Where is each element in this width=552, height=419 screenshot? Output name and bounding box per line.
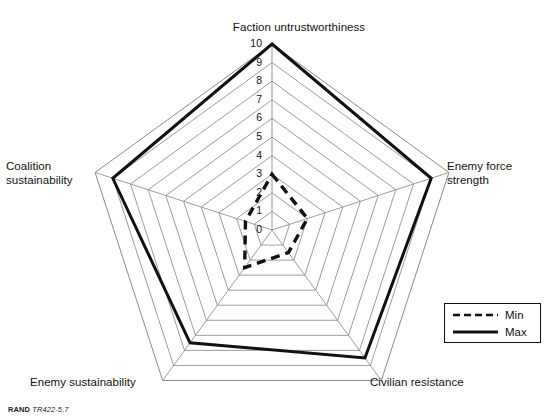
radial-tick-2: 2 [248,186,262,198]
axis-label-faction-untrustworthiness: Faction untrustworthiness [199,21,399,35]
legend-label-min: Min [505,309,524,321]
legend-entry-min: Min [445,306,542,324]
axis-label-enemy-force-strength: Enemy force strength [447,160,551,187]
grid-spokes [95,44,449,380]
radial-tick-10: 10 [248,37,262,49]
axis-label-civilian-resistance: Civilian resistance [370,376,540,390]
chart-legend: Min Max [444,303,541,343]
radial-tick-1: 1 [248,204,262,216]
legend-swatch-solid-line [452,326,499,338]
axis-label-coalition-sustainability: Coalition sustainability [6,160,102,187]
axis-label-enemy-sustainability: Enemy sustainability [30,376,210,390]
source-note: RAND TR422-5.7 [8,405,69,414]
legend-label-max: Max [505,326,527,338]
source-note-code: TR422-5.7 [32,405,68,414]
radial-tick-9: 9 [248,56,262,68]
radial-tick-3: 3 [248,167,262,179]
radial-tick-6: 6 [248,111,262,123]
radial-tick-7: 7 [248,93,262,105]
legend-entry-max: Max [445,323,542,341]
radial-tick-8: 8 [248,74,262,86]
radial-tick-4: 4 [248,149,262,161]
legend-swatch-dashed-line [452,309,499,321]
radial-tick-5: 5 [248,130,262,142]
source-note-brand: RAND [8,405,30,414]
radar-chart-figure: Faction untrustworthiness Enemy force st… [0,0,552,419]
radial-tick-0: 0 [248,223,262,235]
radar-plot-svg [0,0,552,419]
